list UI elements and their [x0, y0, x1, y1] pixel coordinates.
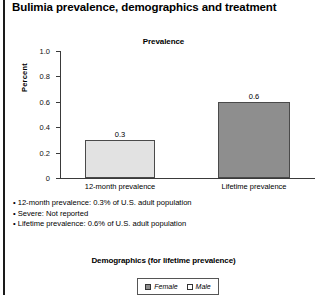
bullet-marker-icon: •: [13, 219, 16, 228]
y-tick-1: 0.2: [56, 153, 60, 154]
y-tick-label-3: 0.6: [40, 97, 50, 106]
y-tick-label-4: 0.8: [40, 72, 50, 81]
x-tick-label-0: 12-month prevalence: [85, 182, 155, 191]
list-item-text: Severe: Not reported: [18, 209, 89, 218]
list-item: •Lifetime prevalence: 0.6% of U.S. adult…: [13, 219, 313, 230]
demographics-legend: Female Male: [137, 278, 219, 295]
bar-lifetime-prevalence: 0.6: [218, 102, 290, 178]
legend-label-male: Male: [196, 283, 211, 290]
page-title: Bulimia prevalence, demographics and tre…: [12, 1, 276, 13]
facts-list: •12-month prevalence: 0.3% of U.S. adult…: [13, 198, 313, 230]
bar-value-label-0: 0.3: [115, 130, 125, 139]
y-tick-5: 1.0: [56, 51, 60, 52]
y-axis-line: [60, 51, 61, 178]
list-item-text: Lifetime prevalence: 0.6% of U.S. adult …: [18, 219, 186, 228]
y-tick-label-5: 1.0: [40, 47, 50, 56]
x-axis-line: [60, 178, 315, 179]
bar-value-label-1: 0.6: [249, 92, 259, 101]
y-tick-label-0: 0: [46, 174, 50, 183]
figure-panel: Bulimia prevalence, demographics and tre…: [0, 0, 327, 295]
y-tick-0: 0: [56, 178, 60, 179]
chart-title: Prevalence: [0, 37, 327, 46]
legend-swatch-icon-male: [187, 284, 193, 290]
y-tick-4: 0.8: [56, 76, 60, 77]
y-tick-label-1: 0.2: [40, 148, 50, 157]
bar-chart-plot: 0 0.2 0.4 0.6 0.8 1.0 0.3 0.6 12-month p…: [60, 51, 315, 178]
y-tick-2: 0.4: [56, 127, 60, 128]
bullet-marker-icon: •: [13, 198, 16, 207]
list-item: •Severe: Not reported: [13, 209, 313, 220]
legend-item-male: Male: [187, 283, 211, 290]
bullet-marker-icon: •: [13, 209, 16, 218]
bar-12-month-prevalence: 0.3: [85, 140, 155, 178]
y-tick-label-2: 0.4: [40, 123, 50, 132]
demographics-title: Demographics (for lifetime prevalence): [0, 256, 327, 265]
legend-item-female: Female: [145, 283, 177, 290]
legend-swatch-icon-female: [145, 284, 151, 290]
list-item: •12-month prevalence: 0.3% of U.S. adult…: [13, 198, 313, 209]
x-tick-label-1: Lifetime prevalence: [221, 182, 286, 191]
list-item-text: 12-month prevalence: 0.3% of U.S. adult …: [18, 198, 192, 207]
legend-label-female: Female: [154, 283, 177, 290]
y-tick-3: 0.6: [56, 102, 60, 103]
y-axis-label: Percent: [20, 63, 29, 92]
